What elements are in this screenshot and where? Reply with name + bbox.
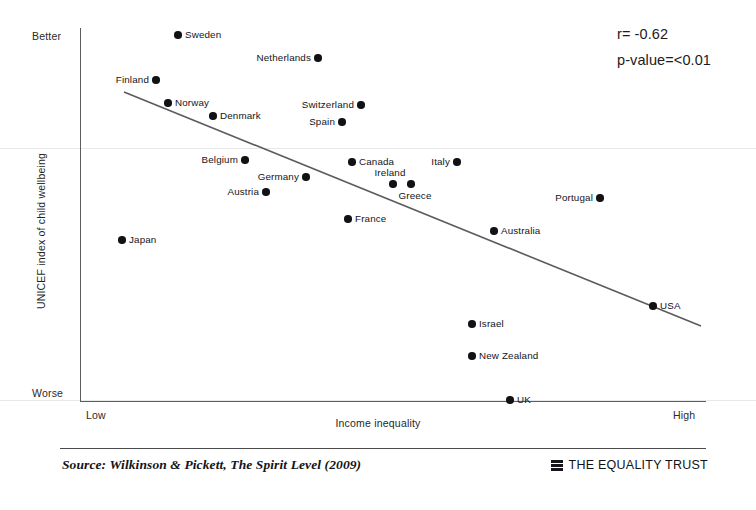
data-label-usa: USA	[660, 301, 681, 311]
data-label-france: France	[355, 214, 386, 224]
data-label-portugal: Portugal	[555, 193, 593, 203]
data-point-ireland[interactable]	[389, 180, 397, 188]
data-label-australia: Australia	[501, 226, 540, 236]
data-label-finland: Finland	[116, 75, 149, 85]
p-value-annotation: p-value=<0.01	[617, 52, 711, 68]
data-label-italy: Italy	[431, 157, 450, 167]
y-axis-tick-worse: Worse	[32, 387, 63, 399]
data-point-finland[interactable]	[152, 76, 160, 84]
data-point-japan[interactable]	[118, 236, 126, 244]
scan-artifact-band	[0, 148, 756, 149]
data-label-canada: Canada	[359, 157, 394, 167]
data-label-uk: UK	[517, 395, 531, 405]
x-axis-title: Income inequality	[0, 417, 756, 429]
data-label-sweden: Sweden	[185, 30, 221, 40]
data-point-denmark[interactable]	[209, 112, 217, 120]
data-point-israel[interactable]	[468, 320, 476, 328]
data-point-switzerland[interactable]	[357, 101, 365, 109]
data-point-belgium[interactable]	[241, 156, 249, 164]
x-axis-line	[80, 401, 706, 402]
equality-trust-logo: THE EQUALITY TRUST	[551, 458, 708, 472]
data-point-uk[interactable]	[506, 396, 514, 404]
data-label-greece: Greece	[398, 191, 431, 201]
data-label-new-zealand: New Zealand	[479, 351, 538, 361]
equality-trust-label: THE EQUALITY TRUST	[569, 458, 708, 472]
data-point-usa[interactable]	[649, 302, 657, 310]
data-label-germany: Germany	[258, 172, 299, 182]
source-citation: Source: Wilkinson & Pickett, The Spirit …	[62, 457, 361, 473]
y-axis-title: UNICEF index of child wellbeing	[35, 141, 47, 321]
y-axis-line	[80, 28, 81, 402]
data-point-italy[interactable]	[453, 158, 461, 166]
data-point-greece[interactable]	[407, 180, 415, 188]
footer-divider	[60, 448, 706, 449]
correlation-annotation: r= -0.62	[617, 26, 668, 42]
data-point-germany[interactable]	[302, 173, 310, 181]
trend-line	[0, 0, 756, 510]
data-point-spain[interactable]	[338, 118, 346, 126]
data-label-japan: Japan	[129, 235, 156, 245]
data-point-canada[interactable]	[348, 158, 356, 166]
data-label-ireland: Ireland	[374, 168, 405, 178]
data-label-netherlands: Netherlands	[257, 53, 311, 63]
data-point-sweden[interactable]	[174, 31, 182, 39]
data-label-norway: Norway	[175, 98, 209, 108]
data-point-austria[interactable]	[262, 188, 270, 196]
data-label-israel: Israel	[479, 319, 504, 329]
data-label-denmark: Denmark	[220, 111, 261, 121]
scatter-chart-figure: Better Worse Low High UNICEF index of ch…	[0, 0, 756, 510]
data-point-netherlands[interactable]	[314, 54, 322, 62]
data-label-switzerland: Switzerland	[302, 100, 354, 110]
equality-trust-bars-icon	[551, 460, 563, 471]
data-point-australia[interactable]	[490, 227, 498, 235]
y-axis-tick-better: Better	[32, 30, 61, 42]
data-label-belgium: Belgium	[202, 155, 238, 165]
data-label-spain: Spain	[309, 117, 335, 127]
data-label-austria: Austria	[227, 187, 259, 197]
data-point-portugal[interactable]	[596, 194, 604, 202]
data-point-norway[interactable]	[164, 99, 172, 107]
data-point-new-zealand[interactable]	[468, 352, 476, 360]
data-point-france[interactable]	[344, 215, 352, 223]
